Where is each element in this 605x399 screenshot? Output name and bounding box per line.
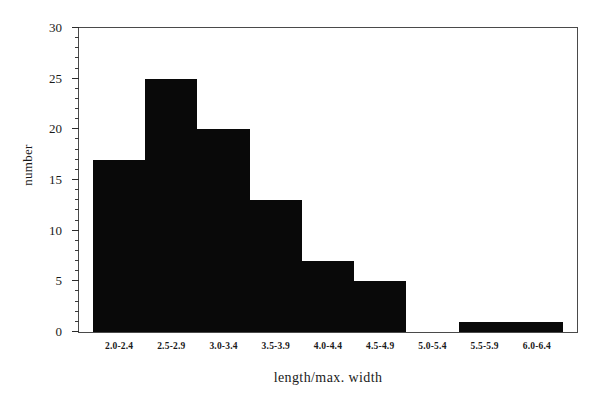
histogram-bar [302, 261, 354, 332]
y-axis-title: number [20, 105, 36, 225]
y-axis-tick-label: 25 [49, 71, 62, 87]
y-axis-major-tick: 15 [72, 179, 79, 180]
histogram-bar [93, 160, 145, 332]
x-axis-title: length/max. width [78, 370, 578, 386]
x-axis-tick-label: 4.0-4.4 [314, 341, 342, 351]
y-axis-major-tick: 30 [72, 27, 79, 28]
plot-area: 051015202530 2.0-2.42.5-2.93.0-3.43.5-3.… [78, 27, 578, 333]
y-axis-major-tick: 0 [72, 331, 79, 332]
x-axis-tick-label: 2.0-2.4 [105, 341, 133, 351]
histogram-bar [354, 281, 406, 332]
histogram-figure: number 051015202530 2.0-2.42.5-2.93.0-3.… [0, 0, 605, 399]
y-axis-tick-label: 20 [49, 121, 62, 137]
y-axis-tick-label: 10 [49, 223, 62, 239]
histogram-bar [197, 129, 249, 332]
x-axis-tick-label: 6.0-6.4 [523, 341, 551, 351]
x-axis-tick-label: 2.5-2.9 [157, 341, 185, 351]
bar-series [79, 28, 577, 332]
x-axis-tick-label: 3.5-3.9 [262, 341, 290, 351]
y-axis-tick-label: 5 [56, 273, 63, 289]
x-axis-tick-label: 5.5-5.9 [470, 341, 498, 351]
y-axis-major-tick: 10 [72, 230, 79, 231]
y-axis-tick-label: 15 [49, 172, 62, 188]
histogram-bar [250, 200, 302, 332]
histogram-bar [145, 79, 197, 332]
y-axis-tick-label: 30 [49, 20, 62, 36]
y-axis-major-tick: 25 [72, 78, 79, 79]
y-axis-major-tick: 20 [72, 128, 79, 129]
histogram-bar [459, 322, 511, 332]
y-axis-major-tick: 5 [72, 280, 79, 281]
x-axis-tick-label: 3.0-3.4 [209, 341, 237, 351]
x-axis-tick-label: 4.5-4.9 [366, 341, 394, 351]
histogram-bar [511, 322, 563, 332]
y-axis-tick-label: 0 [56, 324, 63, 340]
x-axis-tick-label: 5.0-5.4 [418, 341, 446, 351]
